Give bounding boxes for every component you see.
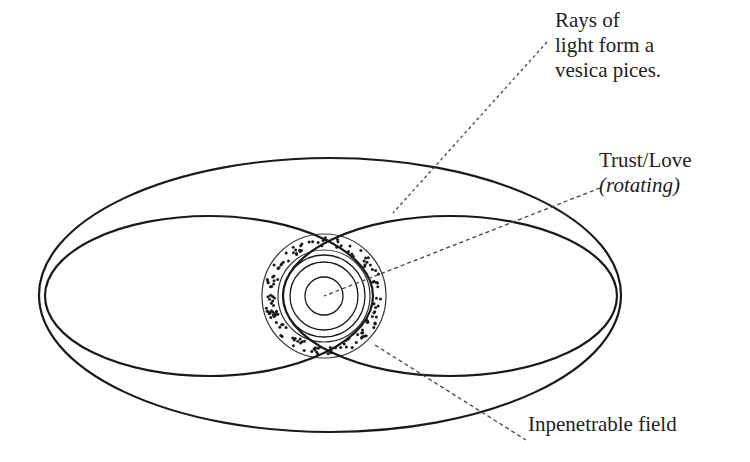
trust-leader-line — [324, 188, 600, 296]
right-lobe-ellipse — [283, 216, 617, 376]
field-leader-line — [375, 345, 526, 440]
trust-love-title: Trust/Love — [599, 148, 692, 173]
inpenetrable-field-label: Inpenetrable field — [528, 412, 677, 437]
rays-label-line-2: light form a — [555, 33, 661, 58]
rays-label-line-1: Rays of — [555, 8, 661, 33]
rays-label: Rays of light form a vesica pices. — [555, 8, 661, 83]
inpenetrable-field-text: Inpenetrable field — [528, 412, 677, 436]
rays-leader-line — [393, 42, 547, 213]
trust-love-label: Trust/Love (rotating) — [599, 148, 692, 198]
outer-ellipse — [39, 158, 621, 432]
trust-love-subtitle: (rotating) — [599, 173, 692, 198]
left-lobe-ellipse — [45, 216, 373, 376]
rays-label-line-3: vesica pices. — [555, 58, 661, 83]
